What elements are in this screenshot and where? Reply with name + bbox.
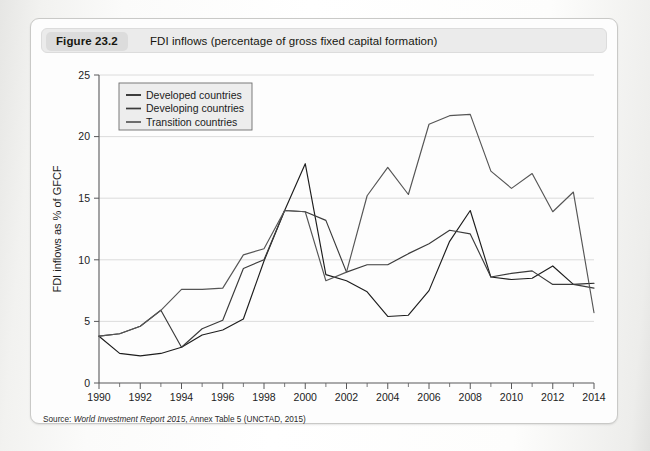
figure-source: Source: World Investment Report 2015, An… (43, 415, 306, 424)
x-tick-label: 2000 (294, 391, 318, 403)
x-tick-label: 2014 (582, 391, 606, 403)
page-background: Figure 23.2 FDI inflows (percentage of g… (0, 0, 650, 451)
x-tick-label: 2008 (459, 391, 483, 403)
y-tick-label: 15 (78, 192, 90, 204)
x-tick-label: 1998 (252, 391, 276, 403)
series-line-transition-countries (99, 114, 594, 336)
y-tick-label: 5 (84, 315, 90, 327)
figure-card: Figure 23.2 FDI inflows (percentage of g… (30, 18, 618, 424)
legend-label: Developing countries (146, 102, 244, 114)
y-tick-label: 0 (84, 377, 90, 389)
chart-area: 0510152025 19901992199419961998200020022… (41, 59, 607, 417)
x-tick-label: 2006 (417, 391, 441, 403)
x-tick-label: 1992 (129, 391, 153, 403)
x-tick-label: 2012 (541, 391, 565, 403)
chart-legend: Developed countriesDeveloping countriesT… (119, 83, 252, 130)
figure-caption-bar: Figure 23.2 FDI inflows (percentage of g… (41, 28, 607, 53)
source-rest: , Annex Table 5 (UNCTAD, 2015) (185, 415, 305, 424)
figure-title: FDI inflows (percentage of gross fixed c… (150, 32, 437, 51)
figure-number-badge: Figure 23.2 (46, 32, 128, 51)
x-tick-label: 2010 (500, 391, 524, 403)
y-tick-label: 20 (78, 130, 90, 142)
legend-label: Developed countries (146, 89, 242, 101)
legend-label: Transition countries (146, 116, 237, 128)
source-prefix: Source: (43, 415, 74, 424)
line-chart: 0510152025 19901992199419961998200020022… (41, 59, 607, 417)
x-tick-label: 2002 (335, 391, 359, 403)
x-tick-label: 1990 (87, 391, 111, 403)
x-axis-ticks: 1990199219941996199820002002200420062008… (87, 383, 606, 403)
source-title: World Investment Report 2015 (74, 415, 186, 424)
data-series-group (99, 114, 594, 355)
y-tick-label: 10 (78, 254, 90, 266)
x-tick-label: 2004 (376, 391, 400, 403)
y-axis-ticks: 0510152025 (78, 69, 99, 389)
x-tick-label: 1996 (211, 391, 235, 403)
y-axis-label: FDI inflows as % of GFCF (51, 165, 63, 292)
y-tick-label: 25 (78, 69, 90, 81)
x-tick-label: 1994 (170, 391, 194, 403)
